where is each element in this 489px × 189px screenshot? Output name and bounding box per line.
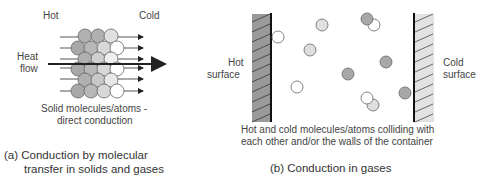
caption-a-line2: transfer in solids and gases [24, 162, 164, 176]
cold-surface-label-2: surface [443, 69, 476, 81]
hot-wall [252, 13, 271, 122]
gas-note-line1: Hot and cold molecules/atoms colliding w… [241, 124, 434, 136]
caption-b: (b) Conduction in gases [270, 161, 391, 175]
heat-label: Heat [17, 51, 38, 63]
hot-surface-label-1: Hot [228, 57, 244, 69]
solid-note-line2: direct conduction [57, 115, 133, 127]
cold-surface-label-1: Cold [443, 57, 464, 69]
gas-molecules [272, 13, 411, 111]
caption-a-line1: (a) Conduction by molecular [4, 148, 148, 162]
solid-note-line1: Solid molecules/atoms - [41, 103, 147, 115]
flow-label: flow [20, 63, 38, 75]
cold-wall [414, 13, 434, 122]
hot-surface-label-2: surface [207, 69, 240, 81]
cold-label: Cold [139, 10, 160, 22]
gas-note-line2: each other and/or the walls of the conta… [241, 136, 433, 148]
hot-label: Hot [43, 10, 59, 22]
